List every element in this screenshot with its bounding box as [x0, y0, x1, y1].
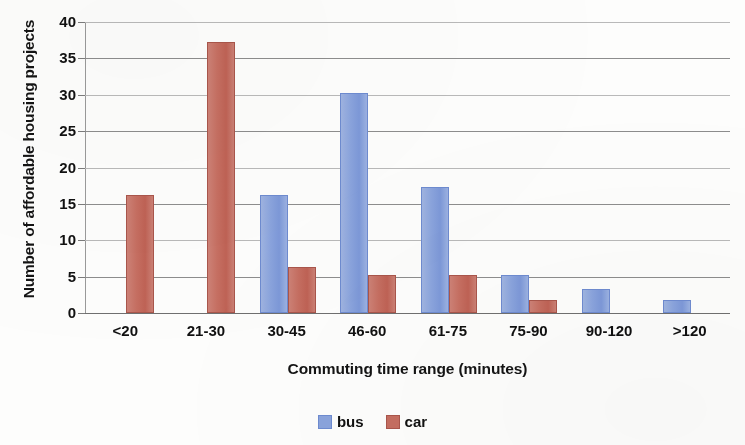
legend-item-car[interactable]: car [386, 413, 428, 430]
y-axis-tick-mark [78, 240, 85, 241]
y-axis-tick-mark [78, 204, 85, 205]
bar-car[interactable] [126, 195, 154, 313]
chart-legend: buscar [0, 413, 745, 430]
bar-bus[interactable] [260, 195, 288, 313]
x-axis-title: Commuting time range (minutes) [85, 360, 730, 378]
bar-group [246, 22, 327, 313]
bar-group [569, 22, 650, 313]
y-axis-tick-mark [78, 277, 85, 278]
y-axis-tick-mark [78, 131, 85, 132]
bar-group [408, 22, 489, 313]
car-color-swatch [386, 415, 400, 429]
x-axis-tick-label: 21-30 [166, 322, 247, 339]
bar-group [488, 22, 569, 313]
y-axis-tick-mark [78, 22, 85, 23]
bar-car[interactable] [368, 275, 396, 313]
x-axis-tick-labels: <2021-3030-4546-6061-7575-9090-120>120 [85, 322, 730, 348]
y-axis-tick-label: 10 [36, 232, 76, 247]
bar-car[interactable] [207, 42, 235, 313]
bar-group [85, 22, 166, 313]
x-axis-tick-label: 90-120 [569, 322, 650, 339]
x-axis-tick-label: <20 [85, 322, 166, 339]
y-axis-tick-mark [78, 313, 85, 314]
y-axis-tick-label: 15 [36, 196, 76, 211]
y-axis-tick-mark [78, 95, 85, 96]
legend-label: car [405, 413, 428, 430]
plot-area [85, 22, 730, 313]
bar-group [166, 22, 247, 313]
legend-item-bus[interactable]: bus [318, 413, 364, 430]
y-axis-tick-label: 20 [36, 160, 76, 175]
x-axis-tick-label: 61-75 [408, 322, 489, 339]
bar-chart-figure: Number of affordable housing projects 05… [0, 0, 745, 445]
y-axis-tick-label: 35 [36, 50, 76, 65]
bar-bus[interactable] [421, 187, 449, 313]
x-axis-tick-label: 46-60 [327, 322, 408, 339]
y-axis-tick-label: 30 [36, 87, 76, 102]
x-axis-tick-label: 75-90 [488, 322, 569, 339]
y-axis-tick-mark [78, 58, 85, 59]
bar-car[interactable] [529, 300, 557, 313]
bar-car[interactable] [288, 267, 316, 313]
y-axis-tick-mark [78, 168, 85, 169]
bar-bus[interactable] [663, 300, 691, 313]
bar-group [327, 22, 408, 313]
bus-color-swatch [318, 415, 332, 429]
legend-label: bus [337, 413, 364, 430]
bar-bus[interactable] [340, 93, 368, 313]
x-axis-tick-label: >120 [649, 322, 730, 339]
y-axis-tick-label: 25 [36, 123, 76, 138]
x-axis-tick-label: 30-45 [246, 322, 327, 339]
y-axis-tick-label: 40 [36, 14, 76, 29]
bar-bus[interactable] [501, 275, 529, 313]
y-axis-tick-labels: 0510152025303540 [28, 0, 76, 445]
y-axis-tick-label: 5 [36, 269, 76, 284]
bar-bus[interactable] [582, 289, 610, 313]
bar-group [649, 22, 730, 313]
gridline [85, 313, 730, 314]
y-axis-tick-label: 0 [36, 305, 76, 320]
bar-car[interactable] [449, 275, 477, 313]
